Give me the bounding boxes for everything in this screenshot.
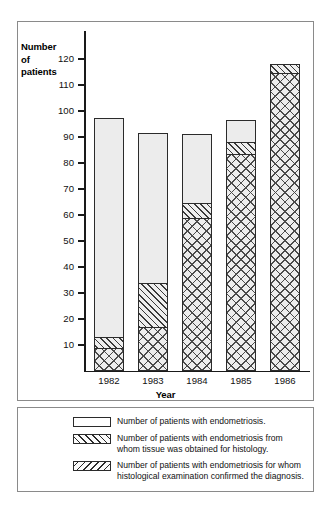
y-axis-tick-110 [78,84,84,85]
y-axis-title-line-3: patients [21,66,79,79]
legend-panel: Number of patients with endometriosis. N… [17,407,314,492]
y-axis-tick-label-20: 20 [18,314,74,324]
y-axis-tick-label-110: 110 [18,80,74,90]
x-axis-title: Year [0,389,331,402]
legend-label-2-line-1: histological examination confirmed the d… [117,471,313,482]
y-axis-tick-40 [78,266,84,267]
legend-label-1-line-1: whom tissue was obtained for histology. [117,444,313,455]
y-axis-tick-50 [78,240,84,241]
y-axis-label-wrap-90: 90 [18,132,74,142]
y-axis-tick-label-50: 50 [18,236,74,246]
y-axis-label-wrap-40: 40 [18,262,74,272]
y-axis-label-wrap-100: 100 [18,106,74,116]
y-axis-label-wrap-50: 50 [18,236,74,246]
x-axis-line [84,371,310,373]
y-axis-tick-30 [78,292,84,293]
bar-chart-figure: Number of patients 102030405060708090100… [0,0,331,510]
legend-swatch-histology-confirmed [73,461,111,471]
y-axis-tick-label-10: 10 [18,340,74,350]
y-axis-tick-label-60: 60 [18,210,74,220]
x-axis-tick-label-1984: 1984 [175,375,219,386]
y-axis-tick-label-120: 120 [18,54,74,64]
y-axis-tick-label-100: 100 [18,106,74,116]
y-axis-title-line-1: Number [21,41,79,54]
legend-label-0: Number of patients with endometriosis. [117,416,313,427]
y-axis-tick-label-30: 30 [18,288,74,298]
y-axis-label-wrap-30: 30 [18,288,74,298]
y-axis-label-wrap-20: 20 [18,314,74,324]
legend-label-2-line-0: Number of patients with endometriosis fo… [117,460,313,471]
legend-label-1-line-0: Number of patients with endometriosis fr… [117,433,313,444]
x-axis-tick-label-1985: 1985 [219,375,263,386]
y-axis-label-wrap-110: 110 [18,80,74,90]
x-axis-tick-label-1983: 1983 [131,375,175,386]
y-axis-tick-90 [78,136,84,137]
y-axis-line [84,31,86,372]
y-axis-label-wrap-120: 120 [18,54,74,64]
legend-swatch-endometriosis-total [73,417,111,427]
y-axis-label-wrap-70: 70 [18,184,74,194]
y-axis-tick-label-90: 90 [18,132,74,142]
y-axis-tick-10 [78,344,84,345]
x-axis-tick-label-1982: 1982 [87,375,131,386]
y-axis-tick-label-70: 70 [18,184,74,194]
y-axis-tick-70 [78,188,84,189]
legend-label-2: Number of patients with endometriosis fo… [117,460,313,481]
legend-label-1: Number of patients with endometriosis fr… [117,433,313,454]
legend-swatch-tissue-for-histology [73,434,111,444]
y-axis-label-wrap-60: 60 [18,210,74,220]
y-axis-tick-20 [78,318,84,319]
y-axis-tick-100 [78,110,84,111]
y-axis-label-wrap-80: 80 [18,158,74,168]
y-axis-tick-80 [78,162,84,163]
y-axis-tick-label-80: 80 [18,158,74,168]
y-axis-label-wrap-10: 10 [18,340,74,350]
y-axis-tick-60 [78,214,84,215]
x-axis-tick-label-1986: 1986 [263,375,307,386]
y-axis-tick-120 [78,58,84,59]
legend-label-0-line-0: Number of patients with endometriosis. [117,416,313,427]
y-axis-tick-label-40: 40 [18,262,74,272]
